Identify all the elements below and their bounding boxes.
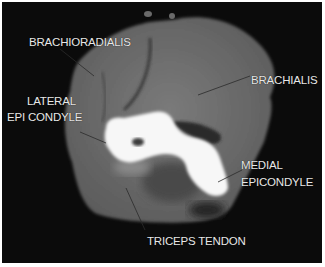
- label-medial-epicondyle-line1: MEDIAL: [241, 159, 283, 172]
- label-brachioradialis: BRACHIORADIALIS: [29, 36, 131, 49]
- label-triceps-tendon: TRICEPS TENDON: [147, 235, 246, 248]
- ct-scan-image: BRACHIORADIALIS BRACHIALIS LATERAL EPI C…: [2, 2, 322, 263]
- label-brachialis: BRACHIALIS: [251, 74, 317, 87]
- label-lateral-epicondyle-line1: LATERAL: [27, 95, 76, 108]
- label-lateral-epicondyle-line2: EPI CONDYLE: [7, 111, 82, 124]
- label-medial-epicondyle-line2: EPICONDYLE: [241, 176, 313, 189]
